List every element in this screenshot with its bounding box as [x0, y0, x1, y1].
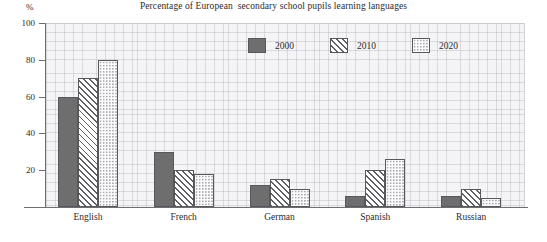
y-axis-line [45, 23, 46, 208]
bar-group-english [58, 23, 118, 207]
legend-item-2000[interactable]: 2000 [248, 38, 294, 53]
y-tick-mark-40 [39, 133, 45, 134]
bar-english-2020 [98, 60, 118, 207]
y-tick-label-40: 40 [0, 128, 35, 138]
x-axis-line [24, 207, 528, 208]
legend-swatch-2010 [330, 38, 348, 53]
x-tick-label-german: German [264, 212, 295, 222]
y-tick-label-60: 60 [0, 92, 35, 102]
y-tick-mark-60 [39, 97, 45, 98]
y-tick-label-80: 80 [0, 55, 35, 65]
bar-english-2010 [78, 78, 98, 207]
bar-french-2020 [194, 174, 214, 207]
legend-item-2010[interactable]: 2010 [330, 38, 376, 53]
bar-spanish-2020 [385, 159, 405, 207]
bar-english-2000 [58, 97, 78, 207]
bar-german-2010 [270, 179, 290, 207]
legend-label-2020: 2020 [439, 41, 458, 51]
y-tick-mark-100 [39, 23, 45, 24]
x-tick-label-spanish: Spanish [360, 212, 390, 222]
bar-russian-2010 [461, 189, 481, 207]
legend-item-2020[interactable]: 2020 [412, 38, 458, 53]
x-tick-label-russian: Russian [456, 212, 486, 222]
y-tick-mark-20 [39, 170, 45, 171]
bar-russian-2000 [441, 196, 461, 207]
bar-french-2010 [174, 170, 194, 207]
bar-spanish-2000 [345, 196, 365, 207]
legend-swatch-2000 [248, 38, 266, 53]
bar-spanish-2010 [365, 170, 385, 207]
legend-label-2000: 2000 [275, 41, 294, 51]
y-tick-mark-80 [39, 60, 45, 61]
chart-title: Percentage of European secondary school … [0, 1, 547, 11]
x-tick-label-english: English [73, 212, 102, 222]
bar-group-french [154, 23, 214, 207]
y-tick-label-20: 20 [0, 165, 35, 175]
plot-frame-right [524, 23, 525, 208]
chart-legend: 200020102020 [248, 38, 458, 53]
chart-root: Percentage of European secondary school … [0, 0, 547, 242]
legend-swatch-2020 [412, 38, 430, 53]
y-axis-unit-label: % [26, 2, 34, 12]
bar-russian-2020 [481, 198, 501, 207]
bar-german-2000 [250, 185, 270, 207]
bar-german-2020 [290, 189, 310, 207]
bar-french-2000 [154, 152, 174, 207]
x-tick-label-french: French [170, 212, 196, 222]
legend-label-2010: 2010 [357, 41, 376, 51]
y-tick-label-100: 100 [0, 18, 35, 28]
